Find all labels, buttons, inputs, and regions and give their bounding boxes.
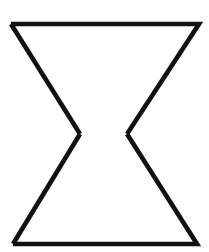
hourglass-figure bbox=[0, 0, 209, 252]
drawing-canvas bbox=[0, 0, 209, 252]
